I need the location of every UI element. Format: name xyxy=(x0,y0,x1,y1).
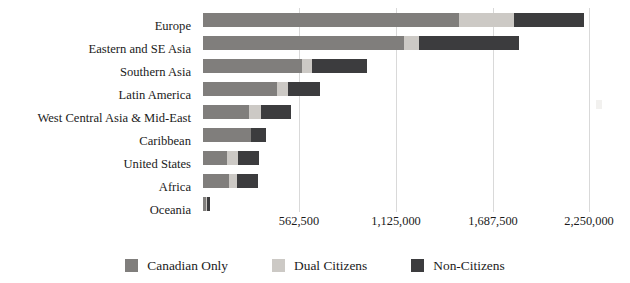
stacked-bar-chart: Europe Eastern and SE Asia Southern Asia… xyxy=(0,0,630,283)
bar-row xyxy=(203,105,291,119)
x-tick-label: 1,687,500 xyxy=(468,214,518,229)
legend-item-dual-citizens: Dual Citizens xyxy=(272,258,367,273)
category-label: Eastern and SE Asia xyxy=(89,43,191,56)
category-label: West Central Asia & Mid-East xyxy=(37,112,191,125)
legend-label: Canadian Only xyxy=(147,258,228,273)
bar-segment-canadian-only xyxy=(203,82,277,96)
bar-segment-dual-citizens xyxy=(249,105,261,119)
bar-segment-canadian-only xyxy=(203,128,251,142)
bar-segment-canadian-only xyxy=(203,174,229,188)
bar-segment-non-citizens xyxy=(312,59,366,73)
bar-segment-non-citizens xyxy=(419,36,519,50)
bar-segment-canadian-only xyxy=(203,36,404,50)
legend-item-non-citizens: Non-Citizens xyxy=(411,258,504,273)
bar-segment-canadian-only xyxy=(203,59,302,73)
x-tick-label: 562,500 xyxy=(279,214,319,229)
legend-label: Non-Citizens xyxy=(433,258,504,273)
bar-segment-non-citizens xyxy=(261,105,291,119)
category-label: Oceania xyxy=(150,204,191,217)
chart-legend: Canadian Only Dual Citizens Non-Citizens xyxy=(0,254,630,276)
bar-row xyxy=(203,197,210,211)
bar-row xyxy=(203,59,367,73)
category-label: United States xyxy=(123,158,191,171)
bar-segment-non-citizens xyxy=(207,197,210,211)
bar-segment-non-citizens xyxy=(237,174,258,188)
category-label: Caribbean xyxy=(139,135,191,148)
bar-segment-dual-citizens xyxy=(459,13,514,27)
legend-item-canadian-only: Canadian Only xyxy=(125,258,228,273)
bar-row xyxy=(203,151,259,165)
category-label: Africa xyxy=(159,181,191,194)
x-tick-label: 1,125,000 xyxy=(371,214,421,229)
bar-segment-dual-citizens xyxy=(277,82,288,96)
category-axis: Europe Eastern and SE Asia Southern Asia… xyxy=(0,8,197,212)
bar-segment-non-citizens xyxy=(238,151,259,165)
bar-row xyxy=(203,36,519,50)
bar-row xyxy=(203,128,266,142)
category-label: Latin America xyxy=(119,89,191,102)
category-label: Southern Asia xyxy=(120,66,191,79)
bar-segment-non-citizens xyxy=(288,82,320,96)
plot-area xyxy=(203,8,590,212)
category-label: Europe xyxy=(155,20,191,33)
bar-row xyxy=(203,82,320,96)
bar-segment-canadian-only xyxy=(203,151,227,165)
bar-segment-non-citizens xyxy=(251,128,266,142)
scan-artifact xyxy=(596,100,602,109)
x-tick-label: 2,250,000 xyxy=(564,214,614,229)
bar-segment-dual-citizens xyxy=(302,59,312,73)
legend-swatch-canadian-only-icon xyxy=(125,259,138,272)
legend-swatch-non-citizens-icon xyxy=(411,259,424,272)
bar-segment-dual-citizens xyxy=(227,151,238,165)
bar-row xyxy=(203,13,584,27)
bar-segment-canadian-only xyxy=(203,105,249,119)
legend-swatch-dual-citizens-icon xyxy=(272,259,285,272)
gridline xyxy=(589,8,590,212)
bar-segment-dual-citizens xyxy=(229,174,237,188)
x-axis: 562,500 1,125,000 1,687,500 2,250,000 xyxy=(203,214,590,234)
bar-segment-dual-citizens xyxy=(404,36,419,50)
bar-segment-canadian-only xyxy=(203,13,459,27)
legend-label: Dual Citizens xyxy=(294,258,367,273)
bar-row xyxy=(203,174,258,188)
bar-segment-non-citizens xyxy=(514,13,584,27)
